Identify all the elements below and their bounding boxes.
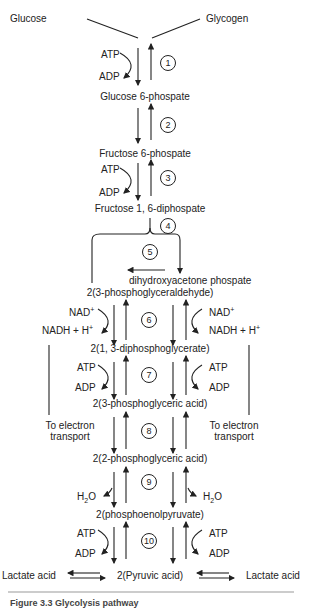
step-1-marker: 1 xyxy=(160,55,176,71)
nadh-label-left: NADH + H+ xyxy=(42,325,93,336)
step-8-marker: 8 xyxy=(141,423,157,439)
step-2-marker: 2 xyxy=(160,117,176,133)
atp-label-left: ATP xyxy=(77,362,96,373)
h2o-label-right: H2O xyxy=(203,491,222,502)
step-9-marker: 9 xyxy=(141,474,157,490)
compound-pyruvic-acid: 2(Pyruvic acid) xyxy=(117,570,183,581)
electron-transport-note-right: To electron transport xyxy=(207,420,261,442)
compound-2-phosphoglyceric-acid: 2(2-phosphoglyceric acid) xyxy=(93,453,208,464)
nad-label-left: NAD+ xyxy=(69,307,94,318)
atp-label: ATP xyxy=(101,164,120,175)
glucose-label: Glucose xyxy=(10,13,47,24)
lactate-acid-right: Lactate acid xyxy=(246,570,300,581)
step-4-marker: 4 xyxy=(160,218,176,234)
atp-label-right: ATP xyxy=(209,528,228,539)
compound-dihydroxyacetone-phosphate: dihydroxyacetone phospate xyxy=(129,275,251,286)
step-7-marker: 7 xyxy=(141,367,157,383)
compound-phosphoenolpyruvate: 2(phosphoenolpyruvate) xyxy=(96,509,204,520)
compound-fructose-6-phosphate: Fructose 6-phospate xyxy=(99,148,191,159)
compound-3-phosphoglyceraldehyde: 2(3-phosphoglyceraldehyde) xyxy=(87,287,214,298)
lactate-acid-left: Lactate acid xyxy=(2,570,56,581)
step-6-marker: 6 xyxy=(141,312,157,328)
step-10-marker: 10 xyxy=(141,533,157,549)
compound-1-3-diphosphoglycerate: 2(1, 3-diphosphoglycerate) xyxy=(91,343,210,354)
atp-label-right: ATP xyxy=(209,362,228,373)
step-3-marker: 3 xyxy=(160,170,176,186)
figure-caption: Figure 3.3 Glycolysis pathway xyxy=(10,598,139,608)
compound-3-phosphoglyceric-acid: 2(3-phosphoglyceric acid) xyxy=(93,398,208,409)
adp-label-right: ADP xyxy=(209,382,230,393)
nadh-label-right: NADH + H+ xyxy=(209,325,260,336)
h2o-label-left: H2O xyxy=(77,491,96,502)
atp-label-left: ATP xyxy=(77,528,96,539)
compound-fructose-1-6-diphosphate: Fructose 1, 6-diphospate xyxy=(95,203,206,214)
nad-label-right: NAD+ xyxy=(209,307,234,318)
adp-label: ADP xyxy=(99,71,120,82)
adp-label-left: ADP xyxy=(75,382,96,393)
electron-transport-note-left: To electron transport xyxy=(43,420,97,442)
compound-glucose-6-phosphate: Glucose 6-phospate xyxy=(100,91,190,102)
adp-label-right: ADP xyxy=(209,548,230,559)
step-5-marker: 5 xyxy=(142,244,158,260)
atp-label: ATP xyxy=(101,49,120,60)
adp-label-left: ADP xyxy=(75,548,96,559)
glycogen-label: Glycogen xyxy=(206,13,248,24)
adp-label: ADP xyxy=(99,187,120,198)
